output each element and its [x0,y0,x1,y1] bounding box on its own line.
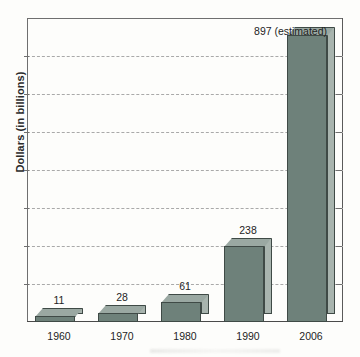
bar-front-face [161,302,201,322]
scan-artifact [150,349,280,353]
y-axis-tick-right [336,56,342,57]
y-axis-tick [24,132,29,133]
bar [287,27,335,322]
y-axis-tick-right [336,246,342,247]
x-axis-label-2006: 2006 [281,330,341,342]
bar [35,308,83,322]
y-axis-tick [24,284,29,285]
x-axis-label-1980: 1980 [155,330,215,342]
bar-chart: Dollars (in billions) 112861238897 (esti… [0,0,360,357]
bar-value-label: 61 [143,280,227,292]
y-axis-tick-right [336,170,342,171]
bar-front-face [224,246,264,322]
y-axis-tick [24,56,29,57]
y-axis-tick [24,94,29,95]
x-axis-label-1970: 1970 [92,330,152,342]
x-axis-label-1960: 1960 [29,330,89,342]
bar-front-face [287,35,327,322]
bar-front-face [98,313,138,322]
y-axis-tick [24,208,29,209]
plot-border-top [27,18,343,19]
y-axis-tick-right [336,284,342,285]
bar-side-face [327,27,335,314]
bar-front-face [35,316,75,322]
x-axis-label-1990: 1990 [218,330,278,342]
bar-value-label: 897 (estimated) [191,25,327,37]
bar-value-label: 28 [80,291,164,303]
plot-area: 112861238897 (estimated) [27,18,343,322]
y-axis-tick [24,246,29,247]
y-axis-label: Dollars (in billions) [14,62,26,182]
y-axis-tick [24,170,29,171]
bar [224,238,272,322]
y-axis-tick-right [336,132,342,133]
bar-side-face [264,238,272,314]
bar [161,294,209,322]
bar-value-label: 238 [206,224,290,236]
y-axis-tick-right [336,94,342,95]
y-axis-tick-right [336,208,342,209]
bar [98,305,146,322]
